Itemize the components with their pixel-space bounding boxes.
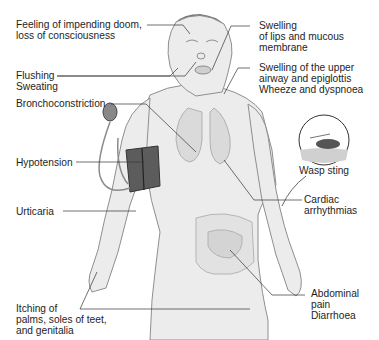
label-impending-doom: Feeling of impending doom, loss of consc… [16,19,142,41]
wasp-inset [282,115,349,206]
label-hypotension: Hypotension [16,157,73,168]
label-abdominal-pain: Abdominal pain Diarrhoea [311,288,359,321]
intestines [196,214,254,274]
label-bronchoconstriction: Bronchoconstriction [16,98,105,109]
label-itching: Itching of palms, soles of teet, and gen… [16,303,107,336]
label-flushing-sweating: Flushing Sweating [16,70,58,92]
label-cardiac-arrhythmias: Cardiac arrhythmias [304,194,357,216]
label-wasp-sting: Wasp sting [299,165,349,176]
label-lip-swelling: Swelling of lips and mucous membrane [259,20,344,53]
label-airway-swelling: Swelling of the upper airway and epiglot… [259,62,363,95]
label-urticaria: Urticaria [16,206,54,217]
